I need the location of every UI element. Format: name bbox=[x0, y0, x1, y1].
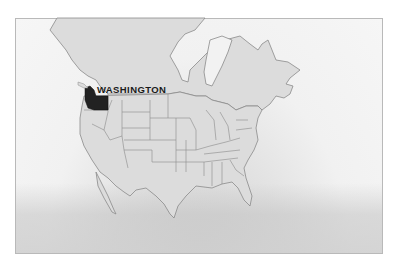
north-america-map bbox=[0, 0, 399, 263]
state-label: WASHINGTON bbox=[97, 84, 166, 95]
vancouver-island bbox=[78, 82, 88, 88]
